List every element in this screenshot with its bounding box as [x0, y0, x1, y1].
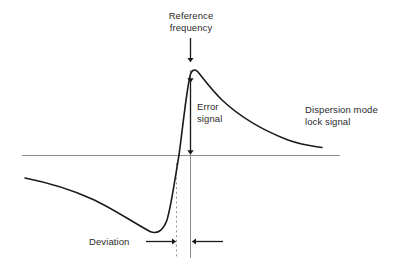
dispersion-mode-lock-signal-curve [25, 70, 322, 233]
dispersion-mode-lock-signal-label: Dispersion mode lock signal [305, 104, 405, 127]
error-signal-label: Error signal [197, 101, 237, 124]
deviation-label: Deviation [89, 236, 141, 248]
dispersion-mode-lock-signal-figure: Reference frequency Error signal Dispers… [0, 0, 408, 271]
reference-frequency-label: Reference frequency [152, 10, 230, 33]
plot-canvas [0, 0, 408, 271]
